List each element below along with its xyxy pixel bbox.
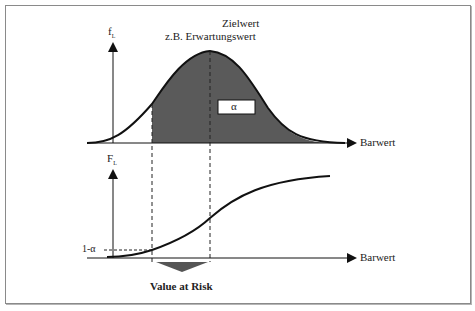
value-at-risk-label: Value at Risk — [150, 280, 213, 292]
cdf-x-label: Barwert — [360, 251, 395, 263]
cdf-y-label: FL — [107, 152, 117, 166]
var-diagram — [0, 0, 475, 311]
alpha-area — [152, 51, 330, 143]
annotation-erwartungswert: z.B. Erwartungswert — [165, 30, 256, 42]
density-chart — [87, 44, 355, 143]
var-marker-triangle — [156, 262, 208, 272]
cdf-chart — [87, 171, 355, 272]
density-x-label: Barwert — [360, 136, 395, 148]
one-minus-alpha-label: 1-α — [82, 243, 96, 254]
cdf-curve — [107, 176, 330, 257]
annotation-zielwert: Zielwert — [222, 17, 259, 29]
density-y-label: fL — [108, 25, 115, 39]
alpha-label: α — [231, 100, 237, 112]
